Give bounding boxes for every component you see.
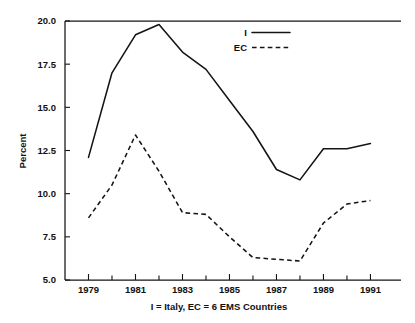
y-axis-ticks bbox=[65, 21, 70, 280]
data-series-layer bbox=[89, 24, 371, 261]
y-axis-title: Percent bbox=[17, 133, 28, 169]
series-line-i bbox=[89, 24, 371, 179]
x-tick-label-1985: 1985 bbox=[219, 284, 241, 295]
legend: I EC bbox=[234, 27, 290, 53]
series-line-ec bbox=[89, 135, 371, 261]
legend-label-italy: I bbox=[244, 27, 247, 38]
y-tick-label-17.5: 17.5 bbox=[38, 59, 57, 70]
x-tick-label-1979: 1979 bbox=[78, 284, 99, 295]
y-tick-label-12.5: 12.5 bbox=[38, 145, 57, 156]
y-axis-tick-labels: 5.07.510.012.515.017.520.0 bbox=[38, 15, 57, 285]
x-axis-ticks bbox=[88, 274, 370, 280]
x-tick-label-1991: 1991 bbox=[360, 284, 382, 295]
y-tick-label-10.0: 10.0 bbox=[38, 188, 57, 199]
x-tick-label-1983: 1983 bbox=[172, 284, 193, 295]
y-tick-label-7.5: 7.5 bbox=[43, 231, 57, 242]
legend-label-ec: EC bbox=[234, 42, 247, 53]
chart-caption: I = Italy, EC = 6 EMS Countries bbox=[151, 301, 288, 312]
x-axis-tick-labels: 1979198119831985198719891991 bbox=[78, 284, 382, 295]
y-tick-label-15.0: 15.0 bbox=[38, 102, 57, 113]
chart-figure: 5.07.510.012.515.017.520.0 1979198119831… bbox=[0, 0, 415, 323]
y-tick-label-5.0: 5.0 bbox=[43, 274, 56, 285]
x-tick-label-1981: 1981 bbox=[125, 284, 147, 295]
plot-frame bbox=[65, 21, 401, 280]
x-tick-label-1987: 1987 bbox=[266, 284, 287, 295]
line-chart: 5.07.510.012.515.017.520.0 1979198119831… bbox=[0, 0, 415, 323]
y-tick-label-20.0: 20.0 bbox=[38, 15, 57, 26]
x-tick-label-1989: 1989 bbox=[313, 284, 334, 295]
